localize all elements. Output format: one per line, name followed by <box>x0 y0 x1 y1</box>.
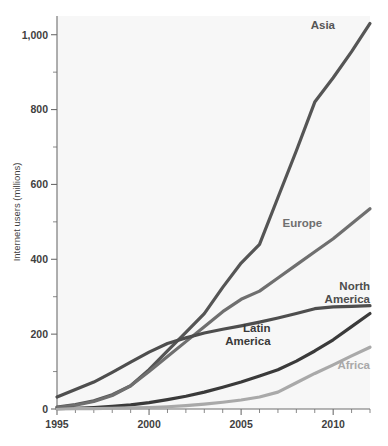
x-tick-label: 2010 <box>321 418 345 430</box>
series-label-asia: Asia <box>311 19 336 31</box>
chart-container: 02004006008001,000 1995200020052010 Asia… <box>0 0 388 446</box>
y-tick-label: 400 <box>30 253 48 265</box>
y-tick-label: 1,000 <box>22 29 48 41</box>
y-tick-label: 0 <box>42 403 48 415</box>
line-chart: 02004006008001,000 1995200020052010 Asia… <box>0 0 388 446</box>
y-tick-label: 200 <box>30 328 48 340</box>
series-label-europe: Europe <box>283 217 323 229</box>
y-tick-label: 600 <box>30 178 48 190</box>
x-tick-label: 2005 <box>229 418 253 430</box>
series-label-africa: Africa <box>337 359 370 371</box>
plot-area-background <box>57 16 370 409</box>
x-tick-label: 2000 <box>137 418 161 430</box>
x-tick-label: 1995 <box>45 418 69 430</box>
y-tick-label: 800 <box>30 103 48 115</box>
y-axis-title: Internet users (millions) <box>11 163 22 262</box>
